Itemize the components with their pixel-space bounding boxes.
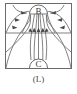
figure-caption: (L) xyxy=(0,74,77,85)
physics-field-diagram: B C xyxy=(0,0,77,78)
figure-container: B C (L) xyxy=(0,0,77,94)
label-c: C xyxy=(35,59,41,69)
label-b: B xyxy=(35,6,41,16)
